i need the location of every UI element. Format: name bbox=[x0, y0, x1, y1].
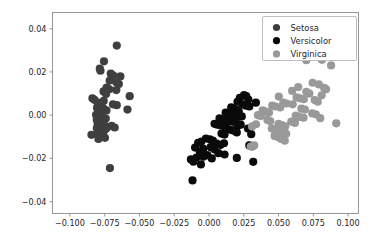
legend-marker-versicolor bbox=[273, 37, 280, 44]
data-point bbox=[220, 139, 228, 147]
data-point bbox=[289, 100, 297, 108]
plot-canvas: −0.100−0.075−0.050−0.0250.0000.0250.0500… bbox=[0, 0, 383, 245]
data-point bbox=[111, 123, 119, 131]
data-point bbox=[106, 164, 114, 172]
data-point bbox=[102, 124, 110, 132]
data-point bbox=[238, 112, 246, 120]
data-point bbox=[245, 102, 253, 110]
x-tick-label: 0.025 bbox=[232, 218, 255, 228]
data-point bbox=[113, 41, 121, 49]
x-tick-label: 0.050 bbox=[267, 218, 290, 228]
y-tick-label: −0.02 bbox=[22, 153, 47, 163]
x-tick-label: 0.000 bbox=[197, 218, 220, 228]
x-tick-label: −0.075 bbox=[90, 218, 120, 228]
x-tick-label: −0.025 bbox=[159, 218, 189, 228]
data-point bbox=[248, 122, 256, 130]
x-tick-label: 0.075 bbox=[302, 218, 325, 228]
data-point bbox=[189, 158, 197, 166]
legend-label-versicolor: Versicolor bbox=[291, 36, 333, 46]
data-point bbox=[265, 108, 273, 116]
data-point bbox=[113, 101, 121, 109]
data-point bbox=[96, 67, 104, 75]
y-tick-label: 0.04 bbox=[28, 24, 46, 34]
data-point bbox=[188, 176, 196, 184]
data-point bbox=[300, 95, 308, 103]
data-point bbox=[314, 98, 322, 106]
data-point bbox=[220, 150, 228, 158]
legend-label-setosa: Setosa bbox=[291, 23, 319, 33]
legend-marker-setosa bbox=[273, 24, 280, 31]
data-point bbox=[123, 105, 131, 113]
legend-label-virginica: Virginica bbox=[291, 49, 327, 59]
data-point bbox=[247, 142, 255, 150]
y-tick-label: 0.00 bbox=[28, 110, 46, 120]
data-point bbox=[112, 86, 120, 94]
data-point bbox=[332, 119, 340, 127]
data-point bbox=[299, 114, 307, 122]
data-point bbox=[126, 92, 134, 100]
data-point bbox=[327, 61, 335, 69]
data-point bbox=[100, 57, 108, 65]
data-point bbox=[208, 154, 216, 162]
y-tick-label: −0.04 bbox=[22, 197, 47, 207]
data-point bbox=[316, 114, 324, 122]
data-point bbox=[291, 119, 299, 127]
data-point bbox=[233, 154, 241, 162]
data-point bbox=[101, 134, 109, 142]
y-tick-label: 0.02 bbox=[28, 67, 46, 77]
data-point bbox=[237, 121, 245, 129]
data-point bbox=[301, 105, 309, 113]
x-tick-label: 0.100 bbox=[336, 218, 359, 228]
legend-marker-virginica bbox=[273, 50, 280, 57]
data-point bbox=[276, 103, 284, 111]
legend[interactable]: SetosaVersicolorVirginica bbox=[263, 17, 357, 61]
data-point bbox=[197, 160, 205, 168]
data-point bbox=[220, 131, 228, 139]
scatter-plot-figure: −0.100−0.075−0.050−0.0250.0000.0250.0500… bbox=[0, 0, 383, 245]
x-tick-label: −0.100 bbox=[55, 218, 85, 228]
data-point bbox=[199, 153, 207, 161]
x-tick-label: −0.050 bbox=[124, 218, 154, 228]
data-point bbox=[281, 137, 289, 145]
data-point bbox=[249, 158, 257, 166]
data-point bbox=[233, 128, 241, 136]
data-point bbox=[266, 117, 274, 125]
